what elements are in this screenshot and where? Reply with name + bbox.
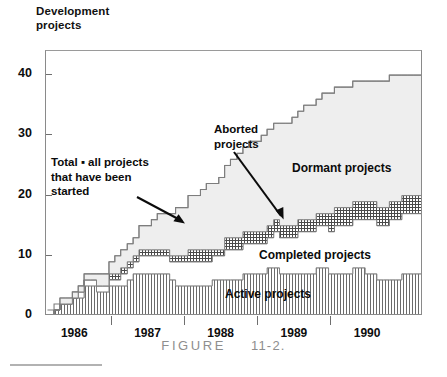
figure-caption: FIGURE 11-2. (0, 338, 447, 353)
figure-caption-number: 11-2. (251, 338, 286, 353)
y-tick-mark (46, 74, 52, 75)
figure-caption-word: FIGURE (161, 338, 226, 353)
y-tick-mark (46, 255, 52, 256)
y-tick-label: 30 (6, 126, 32, 140)
y-tick-mark (46, 134, 52, 135)
chart-plot-area (45, 50, 422, 315)
x-tick-mark (111, 316, 112, 325)
figure-container: Development projects 010203040 198619871… (0, 0, 447, 377)
y-tick-label: 40 (6, 66, 32, 80)
y-axis-title: Development projects (36, 4, 109, 32)
y-tick-label: 10 (6, 247, 32, 261)
y-tick-label: 20 (6, 187, 32, 201)
x-tick-mark (330, 316, 331, 325)
y-tick-mark (46, 195, 52, 196)
footer-rule (10, 364, 102, 366)
x-tick-mark (257, 316, 258, 325)
stacked-area-chart (46, 51, 422, 315)
x-tick-mark (184, 316, 185, 325)
y-tick-label: 0 (6, 307, 32, 321)
